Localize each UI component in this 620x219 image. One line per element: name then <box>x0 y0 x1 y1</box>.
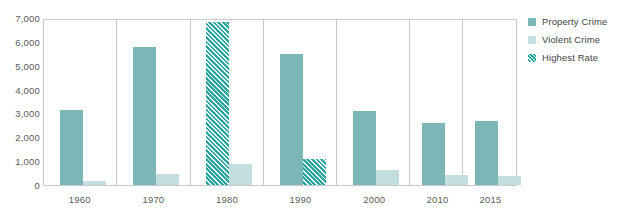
y-axis: 7,000 6,000 5,000 4,000 3,000 2,000 1,00… <box>0 19 40 186</box>
bar-property-crime-1960 <box>60 110 83 185</box>
y-tick-label: 1,000 <box>0 157 40 167</box>
y-tick-label: 0 <box>0 181 40 191</box>
bar-group-1980 <box>191 20 264 185</box>
legend-item-highest-rate: Highest Rate <box>528 50 620 65</box>
y-tick-label: 6,000 <box>0 38 40 48</box>
legend-item-violent-crime: Violent Crime <box>528 32 620 47</box>
bar-group-2015 <box>463 20 516 185</box>
bar-group-2010 <box>410 20 463 185</box>
legend: Property Crime Violent Crime Highest Rat… <box>528 14 620 68</box>
bar-property-crime-2000 <box>353 111 376 185</box>
legend-label-property-crime: Property Crime <box>542 17 607 27</box>
x-tick-label-2000: 2000 <box>337 188 411 210</box>
bar-violent-crime-2000 <box>376 170 399 185</box>
bar-violent-crime-1970 <box>156 174 179 185</box>
y-tick-label: 2,000 <box>0 134 40 144</box>
legend-item-property-crime: Property Crime <box>528 14 620 29</box>
bar-property-crime-1980 <box>206 22 229 185</box>
x-tick-label-1960: 1960 <box>43 188 117 210</box>
bar-property-crime-2010 <box>422 123 445 185</box>
bar-violent-crime-1980 <box>229 164 252 185</box>
bar-group-1990 <box>264 20 337 185</box>
bar-violent-crime-2015 <box>498 176 521 185</box>
bar-violent-crime-1990 <box>303 159 326 185</box>
y-tick-label: 5,000 <box>0 62 40 72</box>
bar-property-crime-1970 <box>133 47 156 185</box>
y-tick-label: 4,000 <box>0 86 40 96</box>
y-tick-label: 7,000 <box>0 14 40 24</box>
bar-group-2000 <box>337 20 410 185</box>
bar-violent-crime-1960 <box>83 181 106 185</box>
bar-group-1960 <box>44 20 117 185</box>
legend-swatch-icon-violent-crime <box>528 36 536 44</box>
x-tick-label-1970: 1970 <box>117 188 191 210</box>
x-tick-label-1990: 1990 <box>264 188 338 210</box>
bar-group-1970 <box>117 20 190 185</box>
x-tick-label-2010: 2010 <box>411 188 464 210</box>
y-tick-label: 3,000 <box>0 110 40 120</box>
legend-swatch-icon-property-crime <box>528 18 536 26</box>
bar-chart: 7,000 6,000 5,000 4,000 3,000 2,000 1,00… <box>0 0 620 219</box>
bar-property-crime-1990 <box>280 54 303 185</box>
x-axis: 1960 1970 1980 1990 2000 2010 2015 <box>43 188 517 210</box>
legend-label-violent-crime: Violent Crime <box>542 35 600 45</box>
x-tick-label-2015: 2015 <box>464 188 517 210</box>
x-tick-label-1980: 1980 <box>190 188 264 210</box>
legend-label-highest-rate: Highest Rate <box>542 53 598 63</box>
legend-swatch-icon-highest-rate <box>528 54 536 62</box>
plot-area <box>43 19 517 186</box>
bar-property-crime-2015 <box>475 121 498 185</box>
